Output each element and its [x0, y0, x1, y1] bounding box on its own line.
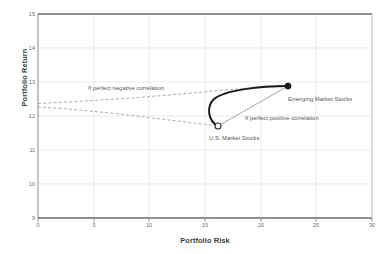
annotation-emerging-market-stocks: Emerging Market Stocks [288, 96, 352, 103]
annotation-positive-correlation: If perfect positive correlation [245, 115, 319, 122]
plot-area [0, 0, 389, 254]
data-point-us-market-stocks[interactable] [215, 123, 221, 129]
annotation-negative-correlation: If perfect negative correlation [88, 85, 164, 92]
annotation-us-market-stocks: U.S. Market Stocks [209, 135, 259, 142]
data-point-emerging-market-stocks[interactable] [285, 83, 291, 89]
portfolio-risk-return-chart: Portfolio Return 15 14 13 12 11 10 9 0 5… [0, 0, 389, 254]
dashed-line-positive-correlation-guide [38, 107, 218, 126]
